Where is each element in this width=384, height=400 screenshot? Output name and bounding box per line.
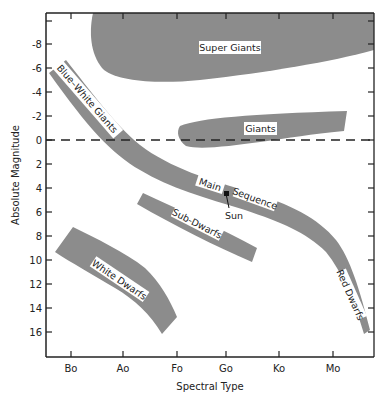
svg-text:-6: -6 [32,63,42,74]
y-axis-title: Absolute Magnitude [10,125,21,225]
giants-label-group: Giants [244,122,277,135]
svg-text:Fo: Fo [171,363,183,374]
svg-text:8: 8 [36,231,42,242]
x-axis-title: Spectral Type [176,381,243,392]
svg-text:Ao: Ao [117,363,130,374]
super-giants-label: Super Giants [199,42,260,53]
svg-text:Ko: Ko [273,363,285,374]
y-tick-labels: -8 -6 -4 -2 0 2 4 6 8 10 12 14 16 [29,39,42,338]
svg-text:16: 16 [29,327,42,338]
svg-text:12: 12 [29,279,42,290]
svg-text:10: 10 [29,255,42,266]
svg-text:14: 14 [29,303,42,314]
giants-label: Giants [245,123,276,134]
hr-diagram: -8 -6 -4 -2 0 2 4 6 8 10 12 14 16 Bo Ao … [0,0,384,400]
super-giants-label-group: Super Giants [199,41,261,54]
svg-text:-4: -4 [32,87,42,98]
x-tick-labels: Bo Ao Fo Go Ko Mo [65,363,341,374]
svg-text:0: 0 [36,135,42,146]
svg-text:Mo: Mo [326,363,341,374]
sun-label: Sun [225,210,243,221]
svg-text:-2: -2 [32,111,42,122]
svg-text:2: 2 [36,159,42,170]
svg-text:4: 4 [36,183,42,194]
svg-text:6: 6 [36,207,42,218]
svg-text:Bo: Bo [65,363,78,374]
sun-marker [224,191,229,196]
svg-text:-8: -8 [32,39,42,50]
svg-text:Go: Go [219,363,233,374]
